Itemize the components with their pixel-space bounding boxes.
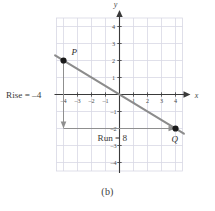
y-tick-label: –1 [109, 108, 116, 115]
x-tick-label: 3 [160, 97, 163, 104]
x-tick-label: –2 [87, 97, 94, 104]
x-axis-arrowhead [184, 91, 191, 97]
figure-container: –4–3–2–11234 –4–3–2–11234 x y P Q Rise =… [0, 0, 215, 211]
y-axis-arrowhead [116, 10, 122, 17]
rise-annotation-label: Rise = –4 [6, 90, 42, 100]
run-annotation-label: Run = 8 [98, 133, 128, 143]
axes [55, 10, 191, 173]
x-tick-label: 4 [174, 97, 177, 104]
x-tick-label: –1 [101, 97, 108, 104]
y-tick-label: 4 [112, 23, 115, 30]
rise-arrowhead [61, 122, 67, 129]
data-point-q [172, 125, 178, 131]
y-tick-label: 1 [112, 74, 115, 81]
x-tick-label: 2 [146, 97, 149, 104]
point-label-p: P [71, 47, 78, 57]
figure-caption: (b) [0, 186, 215, 197]
coordinate-plane-chart: –4–3–2–11234 –4–3–2–11234 x y P Q Rise =… [0, 0, 215, 211]
point-label-q: Q [172, 134, 179, 144]
y-tick-label: 3 [112, 40, 115, 47]
y-tick-label: 2 [112, 57, 115, 64]
x-axis-label: x [194, 91, 199, 100]
y-tick-label: –4 [109, 159, 116, 166]
x-tick-label: –3 [73, 97, 80, 104]
y-tick-label: –3 [109, 142, 116, 149]
data-point-p [60, 57, 66, 63]
y-axis-label: y [113, 0, 118, 9]
